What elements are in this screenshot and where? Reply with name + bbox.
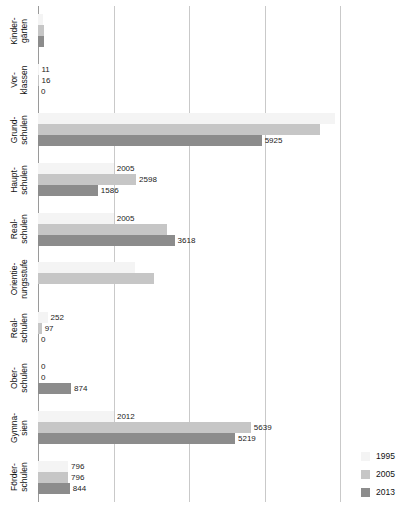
bar-value-label: 5639: [251, 422, 272, 433]
legend-item-2013[interactable]: 2013: [361, 483, 411, 501]
category-label-text: Förder-schulen: [9, 463, 29, 492]
category-label-text: Ober-schulen: [9, 363, 29, 392]
category-label-0: Kinder-gärten: [0, 6, 38, 56]
category-label-text: Real-schulen: [9, 215, 29, 244]
category-label-6: Real-schulen: [0, 304, 38, 354]
legend-label: 1995: [376, 451, 395, 461]
bar-2013: [38, 433, 235, 444]
bar-2013: [38, 483, 70, 494]
bar-2013: [38, 36, 44, 47]
category-label-9: Förder-schulen: [0, 452, 38, 502]
bar-value-label: 1586: [98, 185, 119, 196]
category-label-3: Haupt-schulen: [0, 155, 38, 205]
category-label-text: Real-schulen: [9, 314, 29, 343]
bar-group: [38, 6, 340, 56]
bar-2013: [38, 383, 71, 394]
bar-value-label: 2005: [114, 163, 135, 174]
legend-label: 2005: [376, 469, 395, 479]
category-label-7: Ober-schulen: [0, 353, 38, 403]
plot-area: 1116059252005259815862005361825297000874…: [38, 6, 340, 502]
legend-swatch-icon: [361, 488, 370, 497]
bar-value-label: 0: [38, 361, 45, 372]
bar-1995: [38, 213, 114, 224]
bar-value-label: 252: [48, 312, 64, 323]
bar-value-label: 2598: [136, 174, 157, 185]
bar-1995: [38, 262, 135, 273]
bar-value-label: 5925: [262, 135, 283, 146]
bar-value-label: 0: [38, 372, 45, 383]
category-label-2: Grund-schulen: [0, 105, 38, 155]
bar-value-label: 2012: [114, 411, 135, 422]
bar-group: [38, 254, 340, 304]
bar-value-label: 0: [38, 86, 45, 97]
legend-item-1995[interactable]: 1995: [361, 447, 411, 465]
legend-swatch-icon: [361, 470, 370, 479]
legend-item-2005[interactable]: 2005: [361, 465, 411, 483]
bar-value-label: 844: [70, 483, 86, 494]
bar-group: 796796844: [38, 452, 340, 502]
bar-1995: [38, 411, 114, 422]
bar-group: 00874: [38, 353, 340, 403]
bar-group: 11160: [38, 56, 340, 106]
bar-value-label: 796: [68, 461, 84, 472]
bar-2005: [38, 174, 136, 185]
bar-group: 252970: [38, 304, 340, 354]
gridline-8000: [340, 6, 341, 502]
bar-value-label: 16: [39, 75, 51, 86]
bar-1995: [38, 312, 48, 323]
bar-1995: [38, 163, 114, 174]
bar-value-label: 5219: [235, 433, 256, 444]
bar-group: 201256395219: [38, 403, 340, 453]
category-label-5: Orientie-rungsstufe: [0, 254, 38, 304]
bar-group: 200525981586: [38, 155, 340, 205]
bar-chart: 1116059252005259815862005361825297000874…: [0, 0, 411, 508]
bar-2013: [38, 235, 175, 246]
bar-2005: [38, 224, 167, 235]
bar-2013: [38, 185, 98, 196]
bar-value-label: 796: [68, 472, 84, 483]
bar-2005: [38, 472, 68, 483]
bar-1995: [38, 113, 335, 124]
bar-value-label: 2005: [114, 213, 135, 224]
category-label-text: Grund-schulen: [9, 115, 29, 144]
chart-legend: 199520052013: [361, 447, 411, 501]
bar-2005: [38, 273, 154, 284]
category-label-text: Orientie-rungsstufe: [9, 259, 29, 299]
category-label-4: Real-schulen: [0, 204, 38, 254]
bar-2013: [38, 135, 262, 146]
bar-group: 20053618: [38, 204, 340, 254]
bar-value-label: 0: [38, 334, 45, 345]
bar-2005: [38, 422, 251, 433]
category-label-text: Vor-klassen: [9, 66, 29, 95]
bar-value-label: 3618: [175, 235, 196, 246]
bar-1995: [38, 14, 43, 25]
legend-label: 2013: [376, 487, 395, 497]
category-label-8: Gymna-sien: [0, 403, 38, 453]
bar-1995: [38, 461, 68, 472]
category-label-text: Haupt-schulen: [9, 165, 29, 194]
bar-2005: [38, 124, 320, 135]
category-label-text: Gymna-sien: [9, 412, 29, 442]
bar-group: 5925: [38, 105, 340, 155]
category-label-1: Vor-klassen: [0, 56, 38, 106]
category-label-text: Kinder-gärten: [9, 17, 29, 44]
bar-value-label: 11: [38, 64, 49, 75]
bar-value-label: 874: [71, 383, 87, 394]
bar-value-label: 97: [42, 323, 54, 334]
legend-swatch-icon: [361, 452, 370, 461]
bar-2005: [38, 25, 44, 36]
